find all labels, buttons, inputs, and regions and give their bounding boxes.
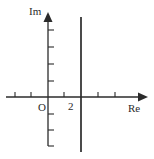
imaginary-axis-group xyxy=(44,12,55,146)
imaginary-axis-label: Im xyxy=(29,6,41,17)
origin-label: O xyxy=(38,102,46,113)
real-axis-group xyxy=(6,92,148,102)
imaginary-axis-arrowhead xyxy=(44,12,53,22)
real-axis-ticks xyxy=(15,92,115,97)
imaginary-axis-ticks xyxy=(48,30,54,146)
complex-plane-figure: Im Re O 2 xyxy=(0,0,154,159)
real-axis-arrowhead xyxy=(138,93,148,102)
tick-label-two: 2 xyxy=(68,101,74,112)
real-axis-label: Re xyxy=(128,103,140,114)
axes-svg xyxy=(0,0,154,159)
